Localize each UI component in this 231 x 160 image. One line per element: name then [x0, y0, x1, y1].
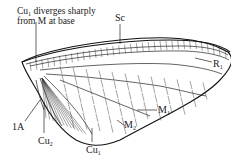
crossvein [92, 96, 94, 104]
label-1a: 1A [12, 121, 25, 132]
crossvein [181, 98, 183, 106]
crossvein [77, 86, 79, 94]
crossvein [83, 113, 85, 121]
crossvein [79, 95, 81, 103]
crossvein [94, 105, 96, 113]
costal-crossvein [130, 44, 131, 53]
label-cu1: Cu1 [86, 144, 101, 156]
label-sc: Sc [115, 12, 126, 23]
crossvein [73, 68, 75, 76]
costal-crossvein [154, 41, 155, 50]
crossvein [127, 83, 129, 91]
costal-crossveins [30, 40, 226, 71]
crossvein [192, 90, 194, 98]
crossvein [107, 107, 109, 115]
crossvein [111, 125, 113, 133]
vein-sc [26, 46, 228, 64]
crossvein [203, 83, 205, 91]
crossvein [205, 92, 207, 100]
crossvein [131, 101, 133, 109]
crossvein [116, 90, 118, 98]
crossvein [75, 77, 77, 85]
crossvein [140, 84, 142, 92]
crossvein [166, 87, 168, 95]
anal-fan-veins [42, 78, 86, 134]
crossvein [183, 107, 185, 115]
costal-crossvein [213, 45, 214, 54]
crossvein [125, 74, 127, 82]
crossvein [81, 104, 83, 112]
crossvein [90, 87, 92, 95]
crossvein [103, 89, 105, 97]
crossvein [98, 123, 100, 131]
crossvein [170, 105, 172, 113]
label-cu2: Cu2 [38, 135, 53, 147]
crossvein [144, 102, 146, 110]
costal-crossvein [190, 40, 191, 49]
crossvein [114, 81, 116, 89]
costal-crossvein [184, 40, 185, 49]
crossvein [138, 75, 140, 83]
crossvein [179, 89, 181, 97]
costal-crossvein [178, 40, 179, 49]
anal-fan-vein [42, 78, 86, 134]
vein-rs [40, 63, 222, 74]
crossvein [88, 78, 90, 86]
label-r1: R1 [213, 58, 223, 70]
crossvein [177, 80, 179, 88]
crossvein [194, 99, 196, 107]
crossvein [164, 78, 166, 86]
label-m1: M1 [158, 104, 170, 116]
crossvein [129, 92, 131, 100]
crossvein [86, 69, 88, 77]
crossvein [155, 95, 157, 103]
crossvein [190, 81, 192, 89]
crossvein [168, 96, 170, 104]
leader-1a [25, 100, 40, 121]
crossvein [151, 77, 153, 85]
costal-crossvein [30, 62, 31, 71]
costal-crossvein [101, 48, 102, 57]
crossvein [96, 114, 98, 122]
crossvein [120, 108, 122, 116]
costal-crossvein [42, 59, 43, 68]
crossvein [99, 71, 101, 79]
crossvein [62, 75, 64, 83]
crossvein [142, 93, 144, 101]
costal-crossvein [107, 47, 108, 56]
crossvein [109, 116, 111, 124]
wing-diagram: Cu1 diverges sharply from M at base Sc R… [0, 0, 231, 160]
label-m2: M2 [124, 119, 136, 131]
crossvein [64, 84, 66, 92]
annotation-line2: from M at base [17, 16, 75, 26]
wing-crossveins [60, 66, 207, 134]
crossvein [112, 72, 114, 80]
crossvein [153, 86, 155, 94]
costal-crossvein [71, 53, 72, 62]
crossvein [133, 110, 135, 118]
crossvein [60, 66, 62, 74]
costal-crossvein [125, 45, 126, 54]
crossvein [101, 80, 103, 88]
costal-crossvein [160, 41, 161, 50]
costal-crossvein [166, 41, 167, 50]
costal-crossvein [36, 61, 37, 70]
costal-crossvein [172, 40, 173, 49]
leader-r1 [195, 58, 212, 62]
costal-crossvein [201, 42, 202, 51]
costal-crossvein [95, 49, 96, 58]
costal-crossvein [48, 58, 49, 67]
